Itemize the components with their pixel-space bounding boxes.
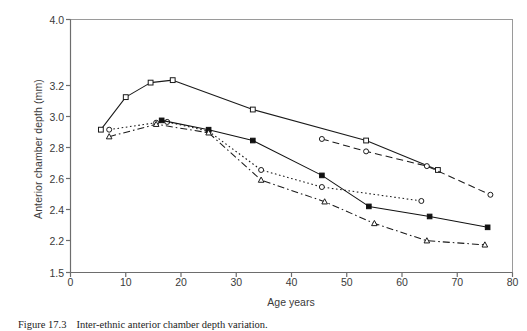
data-point-marker (364, 149, 369, 154)
data-point-marker (123, 95, 128, 100)
chart-plot-area (0, 0, 527, 331)
data-point-marker (364, 138, 369, 143)
data-point-marker (258, 177, 264, 182)
data-point-marker (488, 192, 493, 197)
y-tick-marks (66, 20, 71, 273)
figure-caption-number: Figure 17.3 (18, 319, 66, 330)
figure-caption: Figure 17.3Inter-ethnic anterior chamber… (18, 319, 518, 330)
data-point-marker (319, 185, 324, 190)
data-point-marker (250, 107, 255, 112)
data-point-marker (427, 214, 432, 219)
data-point-marker (319, 136, 324, 141)
data-point-marker (367, 204, 372, 209)
series-series-1 (98, 78, 440, 173)
data-series-layer (98, 78, 492, 247)
plot-frame (71, 20, 513, 273)
data-point-marker (259, 167, 264, 172)
data-point-marker (148, 80, 153, 85)
series-series-2 (319, 136, 493, 197)
data-point-marker (419, 198, 424, 203)
figure-caption-text: Inter-ethnic anterior chamber depth vari… (76, 319, 267, 330)
data-point-marker (170, 78, 175, 83)
data-point-marker (322, 199, 328, 204)
data-point-marker (482, 242, 488, 247)
series-series-5 (106, 121, 487, 247)
figure-container: Anterior chamber depth (mm) 1.52.22.42.6… (0, 0, 527, 331)
data-point-marker (107, 127, 112, 132)
data-point-marker (485, 225, 490, 230)
data-point-marker (320, 173, 325, 178)
data-point-marker (424, 164, 429, 169)
x-tick-marks (71, 273, 513, 278)
data-point-marker (106, 134, 112, 139)
series-series-3 (107, 119, 424, 203)
series-line (109, 122, 421, 201)
series-line (322, 139, 491, 195)
data-point-marker (251, 138, 256, 143)
data-point-marker (98, 127, 103, 132)
data-point-marker (372, 220, 378, 225)
axis-frame (71, 20, 513, 273)
series-line (109, 124, 485, 245)
data-point-marker (424, 238, 430, 243)
data-point-marker (159, 118, 164, 123)
